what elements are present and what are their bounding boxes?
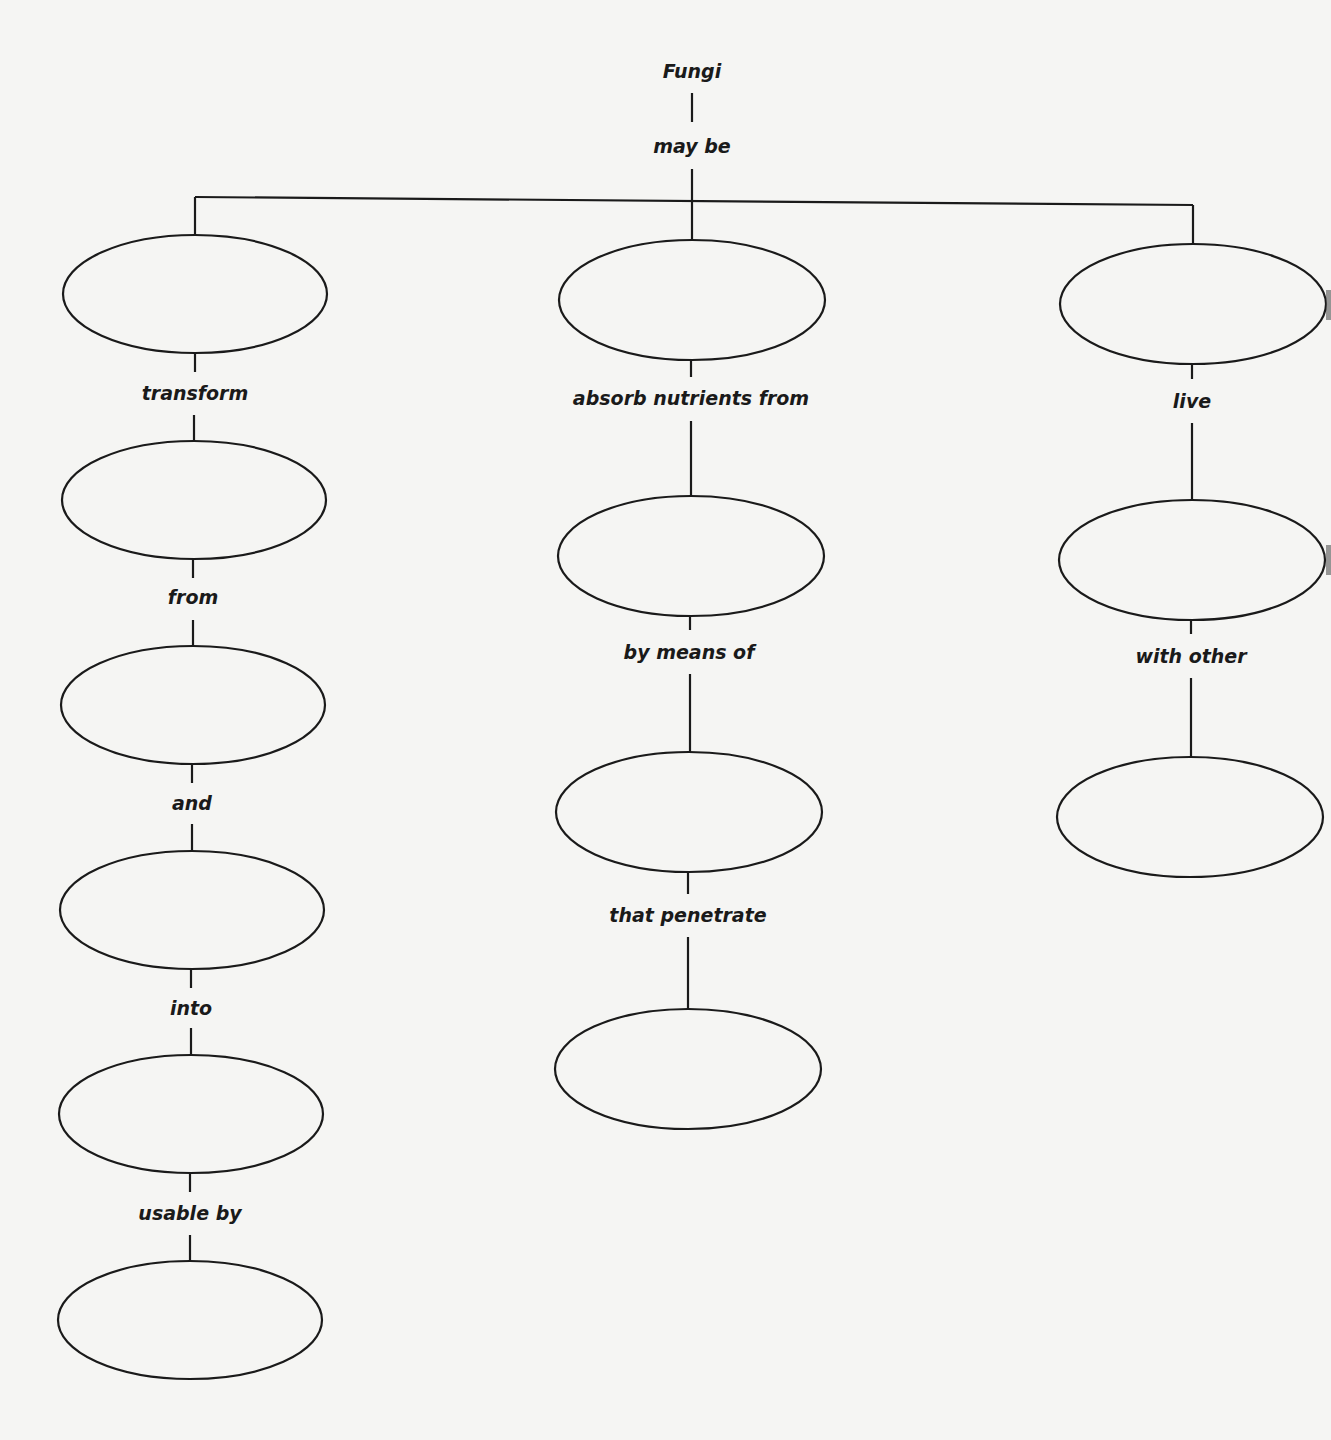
link-label-that-penetrate: that penetrate — [609, 904, 766, 926]
link-label-absorb-nutrients-from: absorb nutrients from — [573, 387, 809, 409]
concept-map-lines — [0, 0, 1331, 1440]
link-label-from: from — [168, 586, 219, 608]
root-link-label: may be — [653, 135, 731, 157]
root-concept-label: Fungi — [663, 60, 721, 82]
link-label-and: and — [172, 792, 212, 814]
link-label-by-means-of: by means of — [624, 641, 755, 663]
link-label-live: live — [1173, 390, 1211, 412]
link-label-with-other: with other — [1135, 645, 1246, 667]
concept-node-right-1 — [1060, 244, 1326, 364]
link-label-usable-by: usable by — [138, 1202, 241, 1224]
concept-node-center-1 — [559, 240, 825, 360]
link-label-transform: transform — [142, 382, 249, 404]
concept-map-page: Fungi may be transform from and into usa… — [0, 0, 1331, 1440]
concept-node-left-1 — [63, 235, 327, 353]
link-label-into: into — [170, 997, 212, 1019]
